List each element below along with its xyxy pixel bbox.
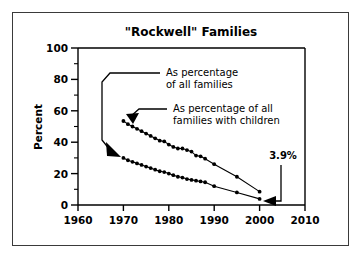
data-point [235, 191, 239, 195]
data-series-layer [122, 119, 262, 201]
data-point [126, 122, 130, 126]
data-point [122, 119, 126, 123]
y-axis-title: Percent [32, 104, 44, 150]
x-axis-tick-labels: 1960 1970 1980 1990 2000 2010 [63, 214, 319, 226]
data-point [199, 180, 203, 184]
data-point [153, 136, 157, 140]
y-ticklabel-60: 60 [53, 105, 68, 117]
x-ticklabel-2010: 2010 [290, 214, 319, 226]
y-ticklabel-20: 20 [53, 168, 68, 180]
data-point [135, 127, 139, 131]
data-point [162, 170, 166, 174]
x-ticklabel-2000: 2000 [245, 214, 274, 226]
data-point [162, 140, 166, 144]
data-point [144, 132, 148, 136]
data-point [212, 184, 216, 188]
data-point [258, 197, 262, 201]
data-point [199, 154, 203, 158]
y-ticklabel-100: 100 [46, 42, 68, 54]
chart-canvas: 0 20 40 60 80 100 1960 1970 1980 1990 20… [0, 0, 363, 259]
data-point [149, 166, 153, 170]
data-point [185, 177, 189, 181]
data-point [167, 172, 171, 176]
data-point [194, 179, 198, 183]
data-point [167, 143, 171, 147]
data-point [140, 129, 144, 133]
data-point [203, 157, 207, 161]
data-point [176, 175, 180, 179]
x-ticklabel-1960: 1960 [63, 214, 92, 226]
data-point [144, 165, 148, 169]
annotation-with-children-line2: families with children [173, 115, 280, 126]
leader-line-final-value [271, 165, 281, 201]
data-point [190, 178, 194, 182]
data-point [185, 148, 189, 152]
data-point [181, 176, 185, 180]
y-axis-tick-labels: 0 20 40 60 80 100 [46, 42, 68, 211]
data-point [158, 169, 162, 173]
data-point [203, 180, 207, 184]
x-ticklabel-1970: 1970 [109, 214, 138, 226]
data-point [190, 150, 194, 154]
series-1 [122, 156, 262, 201]
annotation-final-value-label: 3.9% [269, 150, 297, 161]
leader-line-all-families [102, 73, 160, 150]
arrowhead-all-families [106, 142, 121, 157]
data-point [131, 160, 135, 164]
y-ticklabel-0: 0 [61, 199, 68, 211]
annotation-all-families-text: As percentage of all families [166, 67, 238, 90]
data-point [153, 168, 157, 172]
data-point [194, 154, 198, 158]
data-point [158, 139, 162, 143]
data-point [126, 158, 130, 162]
data-point [131, 125, 135, 129]
data-point [171, 173, 175, 177]
data-point [149, 134, 153, 138]
data-point [235, 175, 239, 179]
data-point [181, 147, 185, 151]
data-point [171, 145, 175, 149]
data-point [176, 147, 180, 151]
data-point [135, 161, 139, 165]
data-point [212, 162, 216, 166]
annotation-with-children-text: As percentage of all families with child… [173, 103, 280, 126]
chart-title: "Rockwell" Families [125, 25, 257, 39]
figure-container: 0 20 40 60 80 100 1960 1970 1980 1990 20… [0, 0, 363, 259]
annotation-final-value-leader [271, 165, 281, 201]
annotation-all-families-leader [102, 73, 160, 150]
x-ticklabel-1990: 1990 [200, 214, 229, 226]
annotation-all-families-line1: As percentage [166, 67, 238, 78]
x-axis-major-ticks [78, 205, 305, 211]
data-point [140, 163, 144, 167]
series-0 [122, 119, 262, 193]
data-point [258, 190, 262, 194]
x-ticklabel-1980: 1980 [154, 214, 183, 226]
annotation-all-families-line2: of all families [166, 79, 233, 90]
y-ticklabel-40: 40 [53, 136, 68, 148]
annotation-with-children-line1: As percentage of all [173, 103, 273, 114]
y-ticklabel-80: 80 [53, 73, 68, 85]
data-point [122, 156, 126, 160]
